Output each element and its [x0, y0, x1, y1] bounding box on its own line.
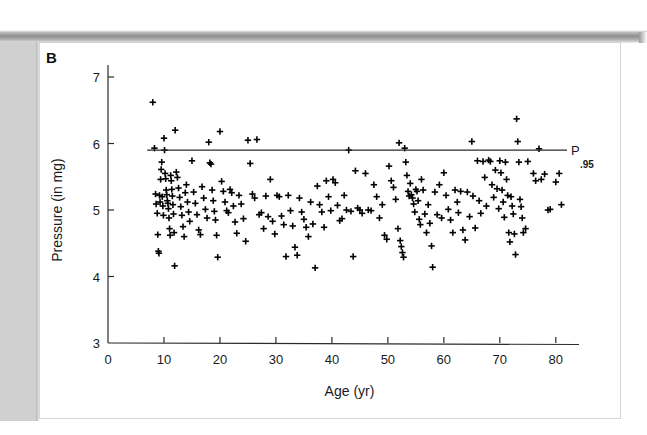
figure-panel: [39, 42, 621, 419]
panel-label-b: B: [46, 49, 57, 66]
scan-left-margin-strip: [0, 42, 38, 421]
